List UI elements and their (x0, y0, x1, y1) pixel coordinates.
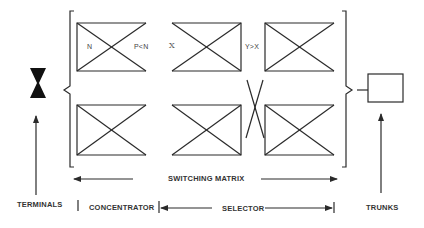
crossover-links (246, 80, 264, 138)
right-brace (342, 11, 352, 167)
concentrator-output-label: P<N (134, 43, 148, 50)
switching-matrix-diagram (0, 0, 424, 228)
concentrator-block-bottom (77, 105, 146, 155)
selector-block-top-2 (265, 23, 334, 71)
terminals-label: TERMINALS (17, 200, 63, 209)
selector-block-bottom-2 (265, 105, 334, 155)
trunks-label: TRUNKS (366, 203, 398, 212)
left-brace (64, 11, 74, 167)
trunk-box (368, 74, 403, 102)
concentrator-label: CONCENTRATOR (89, 203, 154, 212)
selector-input-label: X (169, 41, 175, 50)
switching-matrix-label: SWITCHING MATRIX (168, 174, 244, 183)
selector-output-label: Y>X (245, 43, 259, 50)
concentrator-input-label: N (87, 43, 92, 50)
terminal-hourglass-icon (30, 68, 46, 98)
selector-label: SELECTOR (222, 204, 264, 213)
selector-block-top-1 (172, 23, 241, 71)
selector-block-bottom-1 (172, 105, 241, 155)
